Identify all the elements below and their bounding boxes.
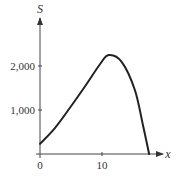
x-tick-label-10: 10	[97, 159, 109, 171]
y-axis-label: S	[37, 2, 43, 16]
y-tick-label-2000: 2,000	[10, 60, 35, 72]
y-tick-label-1000: 1,000	[10, 104, 35, 116]
x-axis-label: x	[164, 147, 171, 161]
axis-ticks	[38, 66, 102, 156]
x-tick-label-0: 0	[37, 159, 43, 171]
chart: 0 10 1,000 2,000 S x	[0, 0, 178, 176]
data-curve	[40, 55, 149, 154]
